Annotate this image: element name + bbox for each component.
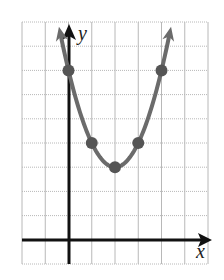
data-point (109, 161, 121, 173)
x-axis-label: x (195, 240, 205, 262)
data-point (63, 64, 75, 76)
parabola-graph: y x (0, 0, 224, 280)
data-point (86, 137, 98, 149)
data-point (132, 137, 144, 149)
axes (22, 24, 212, 264)
data-point (156, 64, 168, 76)
y-axis-label: y (76, 22, 87, 45)
grid-lines (22, 22, 208, 264)
